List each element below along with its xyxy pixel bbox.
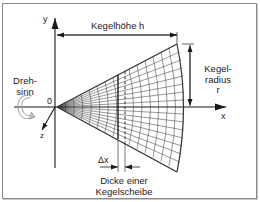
delta-x-label: Δx — [98, 155, 109, 166]
slice-label-line2: Kegelscheibe — [86, 187, 162, 198]
height-dimension — [57, 32, 177, 44]
slice-label: Dicke einer Kegelscheibe — [86, 176, 162, 197]
origin-label: 0 — [47, 96, 52, 107]
rotation-label: Dreh- sinn — [5, 76, 45, 97]
radius-label-line1: Kegel- — [196, 64, 240, 75]
cone-mesh — [57, 44, 184, 172]
y-axis-label: y — [43, 14, 48, 25]
z-axis-label: z — [40, 131, 44, 142]
x-axis-label: x — [221, 111, 226, 122]
rotation-label-line2: sinn — [5, 87, 45, 98]
height-label: Kegelhöhe h — [91, 21, 144, 32]
slice-label-line1: Dicke einer — [86, 176, 162, 187]
z-axis — [42, 107, 55, 130]
rotation-label-line1: Dreh- — [5, 76, 45, 87]
radius-label: Kegel- radius r — [196, 64, 240, 96]
radius-label-line3: r — [196, 85, 240, 96]
